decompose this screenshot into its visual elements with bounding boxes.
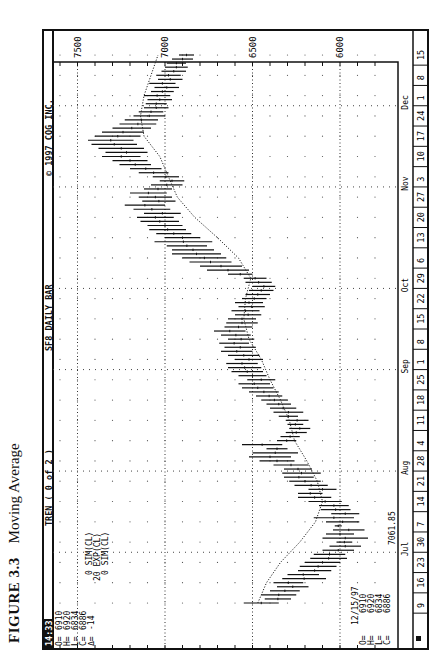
study-label-3: 0 SIM(CL) [101,532,110,575]
week-label: 21 [416,476,426,486]
week-label: 18 [416,395,426,405]
week-label: 4 [416,441,426,446]
month-label: Jul [401,542,410,557]
week-label: 9 [416,603,426,608]
week-label: 1 [416,359,426,364]
week-label: 15 [416,314,426,324]
week-label: 23 [416,557,426,567]
week-label: 10 [416,151,426,161]
moving-average-line [141,55,323,603]
chart: 6000650070007500 91623307142128411182518… [0,0,435,663]
header-study: TREN ( 0 of 2 ) [44,449,54,526]
cursor-value: 7061.85 [388,511,397,545]
week-label: 6 [416,258,426,263]
quote-delta: -14 [87,615,96,630]
price-axis-labels: 6000650070007500 [73,36,346,58]
week-label: 3 [416,177,426,182]
month-label: Aug [401,460,410,475]
week-label: 29 [416,273,426,283]
price-label: 7000 [160,36,170,58]
week-label: 8 [416,339,426,344]
week-label: 13 [416,232,426,242]
week-label: 7 [416,522,426,527]
price-label: 6000 [335,36,345,58]
week-label: 16 [416,577,426,587]
week-label: 28 [416,456,426,466]
week-label: 14 [416,496,426,506]
month-label: Nov [401,176,410,191]
week-label: 1 [416,95,426,100]
quote-label-delta: Δ= [87,636,96,646]
price-label: 7500 [73,36,83,58]
bq-label-close: C= [383,635,392,645]
bq-close: 6886 [383,594,392,613]
week-label: 30 [416,537,426,547]
week-label: 25 [416,374,426,384]
week-label: 27 [416,192,426,202]
month-labels: JulAugSepOctNovDec [401,95,410,556]
corner-marker [416,636,421,641]
week-label: 11 [416,415,426,425]
week-label: 8 [416,75,426,80]
header-copyright: © 1997 CQG INC. [44,99,54,176]
month-label: Oct [401,278,410,293]
week-label: 22 [416,293,426,303]
header-symbol: SF8 DAILY BAR [44,284,54,351]
price-label: 6500 [248,36,258,58]
date-axis-labels: 9162330714212841118251815222961320273101… [413,50,428,613]
week-label: 20 [416,212,426,222]
week-label: 15 [416,50,426,60]
month-label: Dec [401,95,410,110]
month-label: Sep [401,359,410,374]
week-label: 17 [416,131,426,141]
header-time: 14:33 [44,620,54,646]
week-label: 24 [416,111,426,121]
